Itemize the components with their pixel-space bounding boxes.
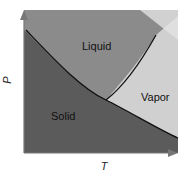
phase-diagram: Liquid Vapor Solid P T — [0, 0, 185, 174]
solid-label: Solid — [51, 110, 75, 122]
liquid-label: Liquid — [82, 40, 111, 52]
x-axis-label: T — [101, 160, 109, 172]
vapor-label: Vapor — [141, 91, 170, 103]
y-axis-label: P — [1, 76, 13, 84]
